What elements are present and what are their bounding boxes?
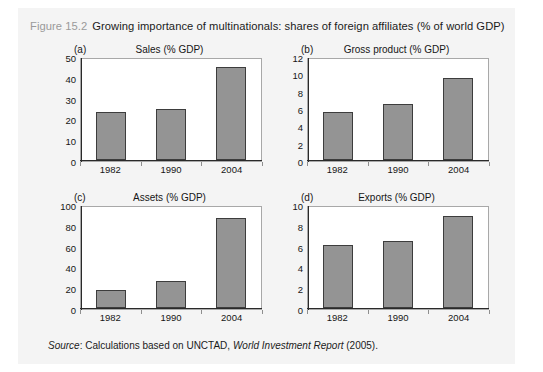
y-axis-tick-label: 0 (298, 305, 303, 316)
subplot-title: Sales (% GDP) (46, 44, 271, 55)
chart-panel-c: (c)Assets (% GDP)02040608010019821990200… (46, 192, 271, 338)
bar (216, 218, 246, 308)
y-axis-tick-label: 12 (292, 53, 303, 64)
y-axis-tick-label: 60 (65, 242, 76, 253)
bar-series (308, 59, 488, 160)
subplot-title: Gross product (% GDP) (273, 44, 498, 55)
y-axis-tick-label: 2 (298, 284, 303, 295)
plot-wrapper: 024681012198219902004 (273, 58, 498, 190)
figure-caption-text: Growing importance of multinationals: sh… (92, 20, 504, 32)
bar (156, 109, 186, 160)
figure-caption: Figure 15.2Growing importance of multina… (30, 20, 505, 32)
x-axis-tick-label: 2004 (210, 312, 254, 323)
x-axis-tick-label: 1982 (88, 164, 132, 175)
y-axis: 01020304050 (46, 58, 80, 162)
plot-area (307, 206, 489, 310)
x-axis-tick-mark (262, 162, 263, 166)
source-body: : Calculations based on UNCTAD, (80, 340, 233, 351)
bar-series (81, 207, 261, 308)
plot-wrapper: 0246810198219902004 (273, 206, 498, 338)
y-axis-tick-label: 4 (298, 263, 303, 274)
x-axis-tick-label: 2004 (210, 164, 254, 175)
x-axis-tick-label: 1990 (149, 312, 193, 323)
plot-area (307, 58, 489, 162)
x-axis-tick-labels: 198219902004 (80, 312, 262, 323)
y-axis-tick-label: 10 (292, 201, 303, 212)
x-axis-line (307, 160, 489, 161)
chart-panel-b: (b)Gross product (% GDP)0246810121982199… (273, 44, 498, 190)
source-year: (2005). (344, 340, 378, 351)
x-axis-tick-label: 1990 (149, 164, 193, 175)
x-axis-tick-label: 1990 (376, 164, 420, 175)
y-axis-tick-label: 10 (65, 136, 76, 147)
y-axis-tick-label: 0 (71, 305, 76, 316)
x-axis-tick-label: 2004 (437, 312, 481, 323)
bar (383, 104, 413, 160)
plot-wrapper: 020406080100198219902004 (46, 206, 271, 338)
y-axis-tick-label: 0 (71, 157, 76, 168)
x-axis-line (80, 160, 262, 161)
x-axis-tick-label: 2004 (437, 164, 481, 175)
x-axis-line (307, 308, 489, 309)
bar-series (81, 59, 261, 160)
x-axis-tick-labels: 198219902004 (80, 164, 262, 175)
y-axis: 0246810 (273, 206, 307, 310)
x-axis-tick-label: 1982 (88, 312, 132, 323)
source-label: Source (48, 340, 80, 351)
y-axis-line (81, 206, 82, 310)
y-axis-tick-label: 20 (65, 115, 76, 126)
y-axis-tick-label: 2 (298, 139, 303, 150)
bar (96, 290, 126, 308)
x-axis-tick-labels: 198219902004 (307, 312, 489, 323)
y-axis-tick-label: 50 (65, 53, 76, 64)
y-axis-tick-label: 8 (298, 87, 303, 98)
x-axis-line (80, 308, 262, 309)
x-axis-tick-label: 1982 (315, 312, 359, 323)
subplot-title: Assets (% GDP) (46, 192, 271, 203)
x-axis-tick-label: 1982 (315, 164, 359, 175)
y-axis-tick-label: 80 (65, 221, 76, 232)
y-axis-tick-label: 40 (65, 73, 76, 84)
y-axis-tick-label: 10 (292, 70, 303, 81)
y-axis-line (308, 206, 309, 310)
y-axis: 020406080100 (46, 206, 80, 310)
y-axis-tick-label: 6 (298, 242, 303, 253)
plot-area (80, 206, 262, 310)
y-axis: 024681012 (273, 58, 307, 162)
plot-wrapper: 01020304050198219902004 (46, 58, 271, 190)
chart-grid: (a)Sales (% GDP)01020304050198219902004 … (18, 44, 515, 326)
source-note: Source: Calculations based on UNCTAD, Wo… (48, 340, 378, 351)
bar (216, 67, 246, 160)
bar (443, 78, 473, 160)
bar (383, 241, 413, 308)
y-axis-tick-label: 6 (298, 105, 303, 116)
subplot-title: Exports (% GDP) (273, 192, 498, 203)
source-publication-title: World Investment Report (233, 340, 344, 351)
chart-panel-a: (a)Sales (% GDP)01020304050198219902004 (46, 44, 271, 190)
x-axis-tick-mark (489, 310, 490, 314)
y-axis-tick-label: 100 (60, 201, 76, 212)
x-axis-tick-mark (262, 310, 263, 314)
y-axis-tick-label: 4 (298, 122, 303, 133)
y-axis-tick-label: 40 (65, 263, 76, 274)
y-axis-tick-label: 0 (298, 157, 303, 168)
figure-panel: Figure 15.2Growing importance of multina… (18, 8, 515, 364)
plot-area (80, 58, 262, 162)
y-axis-tick-label: 20 (65, 284, 76, 295)
y-axis-tick-label: 30 (65, 94, 76, 105)
x-axis-tick-label: 1990 (376, 312, 420, 323)
bar (323, 112, 353, 160)
figure-number: Figure 15.2 (30, 20, 87, 32)
bar (96, 112, 126, 160)
x-axis-tick-mark (489, 162, 490, 166)
bar-series (308, 207, 488, 308)
bar (156, 281, 186, 308)
x-axis-tick-labels: 198219902004 (307, 164, 489, 175)
bar (443, 216, 473, 308)
chart-panel-d: (d)Exports (% GDP)0246810198219902004 (273, 192, 498, 338)
y-axis-tick-label: 8 (298, 221, 303, 232)
y-axis-line (81, 58, 82, 162)
y-axis-line (308, 58, 309, 162)
bar (323, 245, 353, 308)
